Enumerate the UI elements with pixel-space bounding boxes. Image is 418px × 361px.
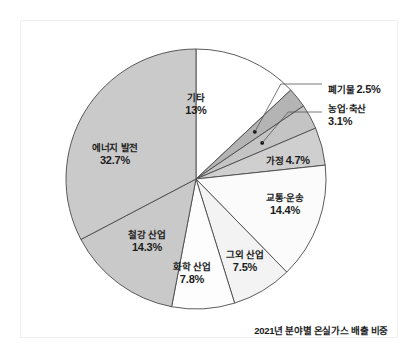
- slice-label-chemical-value: 7.8%: [157, 273, 227, 286]
- slice-label-waste-value: 2.5%: [356, 83, 380, 95]
- slice-label-household: 가정4.7%: [246, 150, 330, 168]
- slice-label-transport: 교통·운송 14.4%: [246, 193, 324, 217]
- slice-label-transport-name: 교통·운송: [246, 193, 324, 204]
- slice-label-agriculture-name: 농업·축산: [328, 104, 366, 115]
- slice-label-household-name: 가정: [266, 155, 284, 166]
- slice-label-steel-value: 14.3%: [112, 241, 182, 254]
- slice-label-chemical-name: 화학 산업: [157, 262, 227, 273]
- slice-label-steel: 철강 산업 14.3%: [112, 230, 182, 254]
- slice-label-energy-name: 에너지 발전: [75, 143, 155, 154]
- slice-label-waste: 폐기물2.5%: [328, 79, 381, 97]
- slice-label-steel-name: 철강 산업: [112, 230, 182, 241]
- pie-chart-canvas: [0, 0, 418, 361]
- slice-label-agriculture-value: 3.1%: [328, 115, 366, 128]
- slice-label-etc-value: 13%: [164, 104, 228, 117]
- slice-label-household-value: 4.7%: [286, 154, 310, 166]
- slice-label-chemical: 화학 산업 7.8%: [157, 262, 227, 286]
- slice-label-agriculture: 농업·축산 3.1%: [328, 104, 366, 128]
- slice-label-other-industry-name: 그외 산업: [210, 250, 280, 261]
- slice-label-transport-value: 14.4%: [246, 204, 324, 217]
- slice-label-etc-name: 기타: [164, 93, 228, 104]
- slice-label-energy: 에너지 발전 32.7%: [75, 143, 155, 167]
- callout-dot: [253, 130, 257, 134]
- slice-label-etc: 기타 13%: [164, 93, 228, 117]
- slice-label-energy-value: 32.7%: [75, 154, 155, 167]
- chart-caption: 2021년 분야별 온실가스 배출 비중: [254, 323, 388, 337]
- pie-chart-figure: 기타 13% 폐기물2.5% 농업·축산 3.1% 가정4.7% 교통·운송 1…: [0, 0, 418, 361]
- slice-label-waste-name: 폐기물: [328, 84, 354, 95]
